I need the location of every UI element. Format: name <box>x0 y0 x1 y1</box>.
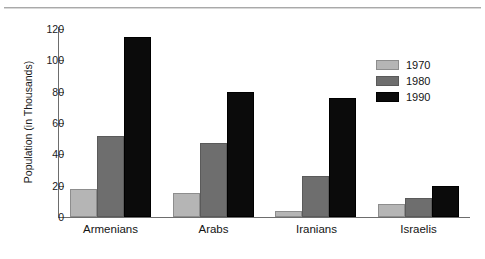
y-axis-tick-label: 120 <box>38 24 64 35</box>
chart-legend: 197019801990 <box>376 58 444 106</box>
y-axis-tick-label: 40 <box>38 149 64 160</box>
bar-israelis-1980 <box>405 198 432 217</box>
legend-item-1970: 1970 <box>376 58 444 72</box>
bar-iranians-1990 <box>329 98 356 217</box>
chart-figure: 020406080100120 Population (in Thousands… <box>0 0 485 259</box>
x-axis-line <box>58 217 470 218</box>
x-axis-label-iranians: Iranians <box>265 223 368 235</box>
y-axis-tick-label-row: 0 <box>22 212 64 223</box>
bar-chart-plot-area: 020406080100120 Population (in Thousands… <box>0 0 485 259</box>
bar-armenians-1990 <box>124 37 151 217</box>
y-axis-title: Population (in Thousands) <box>22 37 34 207</box>
bar-arabs-1970 <box>173 193 200 217</box>
legend-item-1990: 1990 <box>376 90 444 104</box>
y-axis-tick-label: 20 <box>38 181 64 192</box>
legend-label-1980: 1980 <box>406 76 430 87</box>
legend-label-1970: 1970 <box>406 60 430 71</box>
legend-swatch-1970 <box>376 60 399 70</box>
y-axis-tick-label: 0 <box>38 212 64 223</box>
x-axis-label-armenians: Armenians <box>59 223 162 235</box>
y-axis-tick-label: 100 <box>38 55 64 66</box>
y-axis-tick-label: 60 <box>38 118 64 129</box>
bar-iranians-1980 <box>302 176 329 217</box>
bar-israelis-1970 <box>378 204 405 217</box>
legend-swatch-1990 <box>376 92 399 102</box>
bar-arabs-1980 <box>200 143 227 217</box>
y-axis-tick-label: 80 <box>38 87 64 98</box>
bar-iranians-1970 <box>275 211 302 217</box>
x-axis-label-israelis: Israelis <box>367 223 470 235</box>
bar-armenians-1970 <box>70 189 97 217</box>
legend-label-1990: 1990 <box>406 92 430 103</box>
legend-item-1980: 1980 <box>376 74 444 88</box>
bar-israelis-1990 <box>432 186 459 217</box>
legend-swatch-1980 <box>376 76 399 86</box>
x-axis-label-arabs: Arabs <box>162 223 265 235</box>
y-axis-tick-label-row: 120 <box>22 24 64 35</box>
bar-armenians-1980 <box>97 136 124 217</box>
bar-arabs-1990 <box>227 92 254 217</box>
